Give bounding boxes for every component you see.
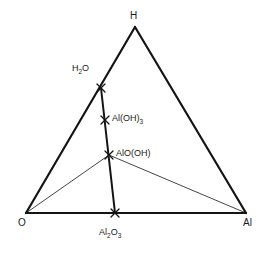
phase-label-al2o3-main: Al <box>99 227 107 237</box>
phase-label-alooh: AlO(OH) <box>116 149 151 158</box>
vertex-label-o: O <box>18 218 26 228</box>
tie-line-alooh-to-o <box>26 155 109 213</box>
phase-label-aloh3-main: Al(OH) <box>112 113 140 123</box>
vertex-label-h: H <box>130 11 137 21</box>
phase-label-h2o-tail: O <box>82 63 89 73</box>
tie-line-alooh-to-al <box>109 155 246 213</box>
vertex-label-al: Al <box>243 218 252 228</box>
ternary-phase-diagram: H O Al H2O Al(OH)3 AlO(OH) Al2O3 <box>0 0 274 262</box>
tie-line-group <box>26 155 246 213</box>
phase-label-aloh3: Al(OH)3 <box>112 114 143 125</box>
triangle-edge-h-al <box>135 27 246 213</box>
diagram-canvas <box>0 0 274 262</box>
phase-label-h2o: H2O <box>72 64 89 75</box>
phase-label-al2o3: Al2O3 <box>99 228 121 239</box>
phase-label-alooh-main: AlO(OH) <box>116 148 151 158</box>
phase-label-al2o3-sub2: 3 <box>118 232 122 239</box>
phase-label-al2o3-tail: O <box>111 227 118 237</box>
phase-label-aloh3-sub: 3 <box>140 118 144 125</box>
